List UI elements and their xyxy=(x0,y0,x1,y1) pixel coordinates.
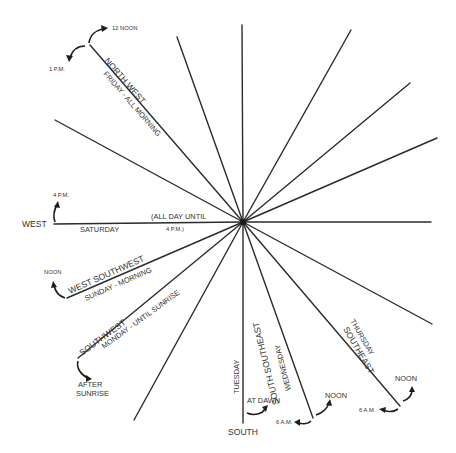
south-label: SOUTH xyxy=(228,427,258,437)
saturday-label: SATURDAY xyxy=(80,225,119,234)
ray-north-north-west xyxy=(177,37,243,222)
arrow-to-4pm-icon xyxy=(54,205,57,222)
all-day-until-label: (ALL DAY UNTIL xyxy=(151,212,206,221)
noon-12-label: 12 NOON xyxy=(112,25,137,31)
ray-west xyxy=(54,222,243,224)
se-6am-label: 6 A.M. xyxy=(359,407,376,413)
center-hub xyxy=(240,219,246,225)
se-noon-label: NOON xyxy=(395,374,417,383)
ray-south-south-west xyxy=(134,222,243,420)
west-label: WEST xyxy=(22,219,48,229)
ray-north xyxy=(242,25,243,222)
arrowhead-icon xyxy=(101,25,108,32)
pm-1-label: 1 P.M. xyxy=(49,66,65,72)
four-pm-note-label: 4 P.M.) xyxy=(166,226,184,232)
wind-direction-diagram: NORTH WEST FRIDAY - ALL MORNING 12 NOON … xyxy=(0,0,456,453)
sse-noon-label: NOON xyxy=(325,391,347,400)
ray-north-east xyxy=(243,83,410,222)
ray-east-south-east xyxy=(243,222,432,324)
after-label: AFTER xyxy=(78,380,102,389)
west-south-west-group: WEST SOUTHWEST SUNDAY - MORNING NOON xyxy=(44,253,153,303)
arrow-at-dawn-icon xyxy=(247,409,265,414)
arrowhead-icon xyxy=(409,386,415,392)
monday-label: MONDAY - UNTIL SUNRISE xyxy=(100,288,182,351)
arrowhead-icon xyxy=(326,399,332,406)
friday-label: FRIDAY - ALL MORNING xyxy=(101,69,163,138)
south-west-group: SOUTHWEST MONDAY - UNTIL SUNRISE AFTER S… xyxy=(76,288,182,398)
ray-east-north-east xyxy=(243,138,437,222)
arrowhead-icon xyxy=(54,201,60,208)
tuesday-label: TUESDAY xyxy=(232,360,241,394)
west-group: WEST SATURDAY (ALL DAY UNTIL 4 P.M.) 4 P… xyxy=(22,192,206,234)
arrowhead-icon xyxy=(379,407,386,413)
pm-4-label: 4 P.M. xyxy=(53,192,69,198)
ray-south-south-east xyxy=(243,222,313,418)
arrow-to-noon-icon xyxy=(89,29,104,43)
sunrise-label: SUNRISE xyxy=(76,389,109,398)
ray-north-north-east xyxy=(243,30,351,222)
arrowhead-icon xyxy=(51,281,57,288)
north-west-group: NORTH WEST FRIDAY - ALL MORNING 12 NOON … xyxy=(49,25,163,138)
ray-west-north-west xyxy=(55,120,243,222)
arrowhead-icon xyxy=(66,55,73,62)
south-east-group: SOUTHEAST THURSDAY 6 A.M. NOON xyxy=(341,318,417,414)
sse-6am-label: 6 A.M. xyxy=(276,419,293,425)
wsw-noon-label: NOON xyxy=(44,269,61,275)
arrowhead-icon xyxy=(294,419,300,426)
